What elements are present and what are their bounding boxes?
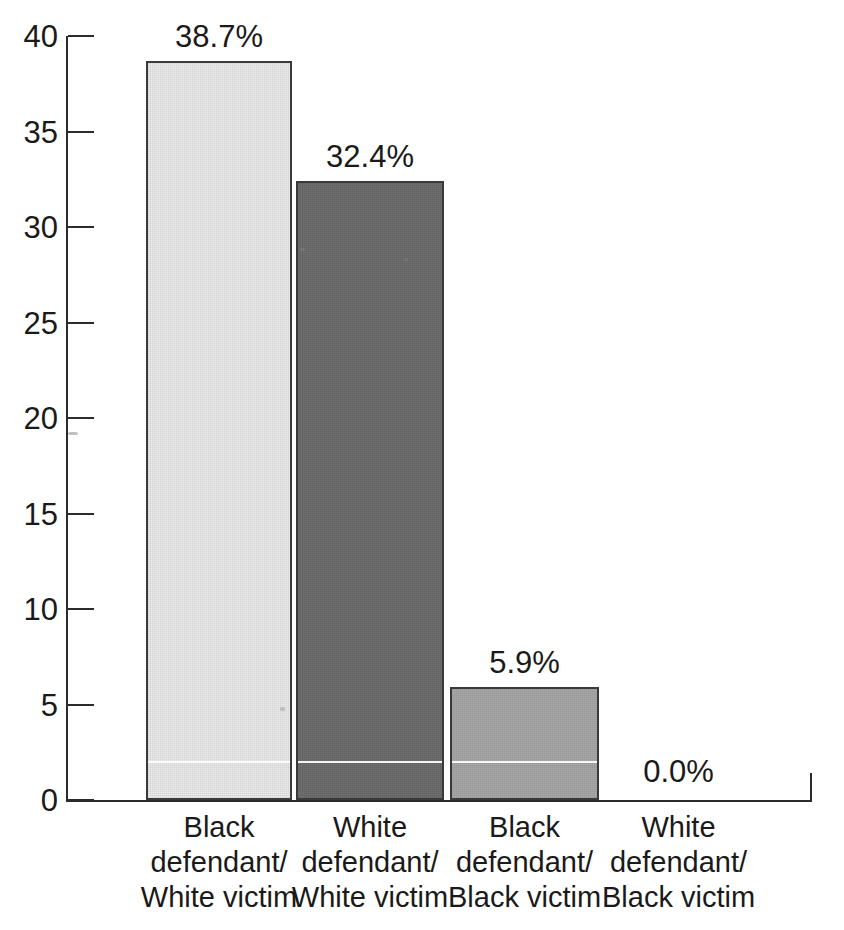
x-axis-category-label-line: White victim <box>141 880 297 915</box>
y-axis-tick-label: 15 <box>8 498 58 529</box>
x-axis-category-label-line: Black victim <box>448 880 601 915</box>
y-axis-tick <box>68 226 94 228</box>
bar-value-label: 32.4% <box>326 141 414 172</box>
y-axis-tick <box>68 608 94 610</box>
y-axis-tick <box>68 131 94 133</box>
bar-chart-figure: 0510152025303540 38.7%32.4%5.9%0.0% Blac… <box>0 0 844 930</box>
x-axis-category-label-line: Black <box>448 810 601 845</box>
x-axis-category-label-line: Black <box>141 810 297 845</box>
y-axis-tick-label: 5 <box>8 689 58 720</box>
x-axis-category-label: Whitedefendant/White victim <box>292 810 448 914</box>
x-axis-category-label-line: White <box>602 810 755 845</box>
bar-value-label: 0.0% <box>643 756 714 787</box>
y-axis-tick <box>68 35 94 37</box>
y-axis-tick <box>68 417 94 419</box>
y-axis-tick <box>68 513 94 515</box>
x-axis-category-label: Blackdefendant/White victim <box>141 810 297 914</box>
x-axis-category-label-line: White <box>292 810 448 845</box>
bar-value-label: 5.9% <box>489 647 560 678</box>
bar <box>450 687 599 800</box>
x-axis-category-label-line: Black victim <box>602 880 755 915</box>
y-axis-tick-label: 25 <box>8 307 58 338</box>
y-axis-tick <box>68 704 94 706</box>
x-axis-category-label-line: defendant/ <box>448 845 601 880</box>
x-axis-category-label: Whitedefendant/Black victim <box>602 810 755 914</box>
y-axis-tick <box>68 322 94 324</box>
x-axis-category-label: Blackdefendant/Black victim <box>448 810 601 914</box>
y-axis-tick-label: 40 <box>8 21 58 52</box>
y-axis-tick-label: 20 <box>8 403 58 434</box>
x-axis-end-tick <box>810 773 812 802</box>
y-axis-tick-label: 0 <box>8 785 58 816</box>
y-axis-line <box>66 36 68 802</box>
y-axis-tick <box>68 799 94 801</box>
y-axis-tick-label: 10 <box>8 594 58 625</box>
x-axis-category-label-line: defendant/ <box>292 845 448 880</box>
x-axis-category-label-line: defendant/ <box>602 845 755 880</box>
x-axis-line <box>66 800 812 802</box>
y-axis-tick-label: 30 <box>8 212 58 243</box>
y-axis-tick-label: 35 <box>8 116 58 147</box>
x-axis-category-label-line: defendant/ <box>141 845 297 880</box>
bar <box>146 61 292 800</box>
x-axis-category-label-line: White victim <box>292 880 448 915</box>
bar <box>296 181 444 800</box>
scan-artifact-speck <box>68 432 78 435</box>
bar-value-label: 38.7% <box>175 21 263 52</box>
